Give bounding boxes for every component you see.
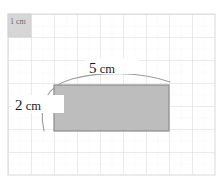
shaded-rectangle <box>54 85 169 131</box>
width-value: 5 <box>89 60 97 76</box>
height-unit-text: cm <box>26 99 41 113</box>
height-value: 2 <box>15 97 23 113</box>
geometry-figure: 1 cm 5 cm 2 cm <box>0 0 221 193</box>
width-unit-text: cm <box>100 62 115 76</box>
width-dimension-label: 5 cm <box>89 61 115 76</box>
unit-square-label: 1 cm <box>10 18 26 26</box>
figure-canvas <box>0 0 221 193</box>
height-dimension-label: 2 cm <box>15 98 41 113</box>
